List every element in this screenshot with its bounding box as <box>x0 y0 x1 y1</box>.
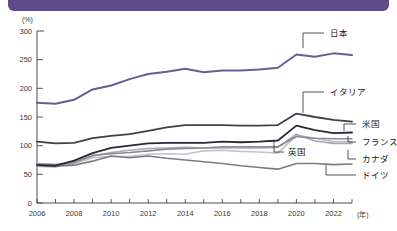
annotation-label-italy: イタリア <box>330 87 366 97</box>
annotation-label-uk: 英国 <box>288 147 306 157</box>
y-tick-label: 50 <box>24 170 32 179</box>
y-tick-label: 100 <box>19 141 32 150</box>
x-tick-label: 2014 <box>177 209 194 218</box>
x-tick-label: 2016 <box>214 209 231 218</box>
annotation-leader-japan <box>303 33 324 48</box>
annotation-leader-germany <box>326 165 356 175</box>
annotation-label-japan: 日本 <box>330 28 348 38</box>
y-tick-label: 250 <box>19 55 32 64</box>
x-tick-label: 2006 <box>29 209 46 218</box>
x-tick-label: 2008 <box>66 209 83 218</box>
y-tick-label: 150 <box>19 113 32 122</box>
chart-container: (%) (年) 05010015020025030020062008201020… <box>0 0 397 231</box>
x-tick-label: 2020 <box>288 209 305 218</box>
annotation-leader-italy <box>303 92 324 113</box>
annotation-leader-usa <box>344 124 356 131</box>
series-line-日本 <box>37 53 352 103</box>
line-chart-plot: 0501001502002503002006200820102012201420… <box>0 0 397 231</box>
annotation-leader-canada <box>348 150 356 159</box>
y-tick-label: 300 <box>19 27 32 36</box>
x-tick-label: 2010 <box>103 209 120 218</box>
annotation-label-usa: 米国 <box>362 119 380 129</box>
chart-axis-lines <box>37 31 352 203</box>
annotation-label-germany: ドイツ <box>362 170 389 180</box>
y-tick-label: 200 <box>19 84 32 93</box>
x-tick-label: 2012 <box>140 209 157 218</box>
annotation-label-canada: カナダ <box>362 154 389 164</box>
y-tick-label: 0 <box>28 199 32 208</box>
x-tick-label: 2022 <box>325 209 342 218</box>
annotation-label-france: フランス <box>362 137 397 147</box>
x-tick-label: 2018 <box>251 209 268 218</box>
